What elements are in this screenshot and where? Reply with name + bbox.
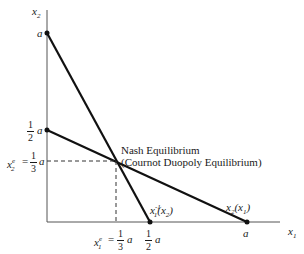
x-tick-half-frac: 12 xyxy=(145,229,152,252)
y-axis-label: x2 xyxy=(32,6,40,22)
x-tick-eq-sign: = xyxy=(108,234,114,245)
curve2-label: x2(x1) xyxy=(226,202,250,218)
reaction-curve-firm1 xyxy=(47,33,150,222)
point-y-half-a xyxy=(45,128,50,133)
x-tick-third-a: a xyxy=(127,234,133,245)
y-tick-a: a xyxy=(37,28,43,39)
y-tick-eq-label: xe2 xyxy=(7,156,15,175)
y-tick-eq-sign: = xyxy=(22,156,28,167)
x-tick-eq-label: xe1 xyxy=(94,234,102,253)
x-tick-a: a xyxy=(243,228,249,239)
nash-label-line1: Nash Equilibrium xyxy=(121,145,200,156)
x-tick-half-a: a xyxy=(155,234,161,245)
y-tick-third-frac: 13 xyxy=(30,151,37,174)
point-x-a xyxy=(245,220,250,225)
y-tick-third-a: a xyxy=(39,156,45,167)
x-axis-label: x1 xyxy=(288,226,296,242)
y-tick-half-frac: 12 xyxy=(27,120,34,143)
nash-label-line2: (Cournot Duopoly Equilibrium) xyxy=(121,157,262,168)
point-y-a xyxy=(45,31,50,36)
curve1-label: x-11(x2) xyxy=(150,202,173,221)
x-tick-third-frac: 13 xyxy=(117,229,124,252)
y-tick-half-a: a xyxy=(37,125,43,136)
